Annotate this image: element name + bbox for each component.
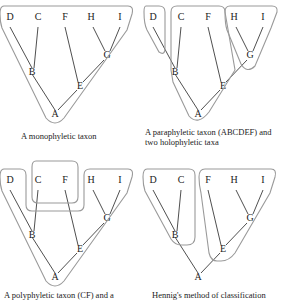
panel-paraphyletic: [144, 6, 277, 120]
caption-polyphyletic: A polyphyletic taxon (CF) and a: [4, 290, 114, 300]
panel-hennig: [143, 169, 276, 282]
caption-line: A monophyletic taxon: [21, 131, 97, 141]
group-outline-abcdefghi: [0, 6, 133, 123]
caption-line: Hennig's method of classification: [152, 290, 266, 300]
caption-hennig: Hennig's method of classification: [152, 290, 266, 300]
caption-line: A polyphyletic taxon (CF) and a: [4, 290, 114, 300]
group-outline-abdeghi: [0, 169, 133, 286]
caption-paraphyletic: A paraphyletic taxon (ABCDEF) and two ho…: [145, 127, 272, 147]
caption-monophyletic: A monophyletic taxon: [21, 131, 97, 141]
caption-line: A paraphyletic taxon (ABCDEF) and: [145, 127, 272, 137]
panel-polyphyletic: [0, 161, 133, 286]
panel-monophyletic: [0, 6, 133, 123]
caption-line: two holophyletic taxa: [145, 137, 272, 147]
